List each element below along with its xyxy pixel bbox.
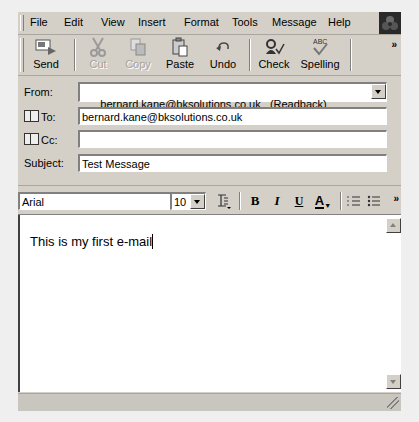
- paragraph-style-icon: [216, 193, 232, 209]
- paste-button[interactable]: Paste: [160, 37, 200, 73]
- menu-insert[interactable]: Insert: [138, 16, 166, 28]
- message-body-editor[interactable]: This is my first e-mail: [18, 215, 401, 392]
- font-size-dropdown-button[interactable]: [190, 194, 205, 209]
- message-body-text[interactable]: This is my first e-mail: [30, 234, 153, 249]
- send-icon: [26, 37, 66, 57]
- copy-icon: [118, 37, 158, 57]
- menu-message[interactable]: Message: [272, 16, 317, 28]
- toolbar: Send Cut Copy: [18, 35, 401, 76]
- address-book-icon: [24, 133, 39, 145]
- copy-button[interactable]: Copy: [118, 37, 158, 73]
- from-dropdown-button[interactable]: [371, 84, 386, 99]
- numbered-list-icon: [347, 194, 361, 208]
- to-label[interactable]: To:: [24, 110, 56, 123]
- format-separator: [340, 192, 342, 210]
- format-separator: [239, 192, 241, 210]
- new-message-window: File Edit View Insert Format Tools Messa…: [18, 12, 401, 410]
- cc-label[interactable]: Cc:: [24, 133, 58, 146]
- scissors-icon: [80, 37, 116, 57]
- scroll-down-button[interactable]: [386, 374, 401, 389]
- menu-view[interactable]: View: [101, 16, 125, 28]
- text-caret: [152, 234, 153, 249]
- menu-edit[interactable]: Edit: [64, 16, 83, 28]
- cc-field[interactable]: [78, 130, 387, 148]
- scroll-up-button[interactable]: [386, 218, 401, 233]
- spelling-icon: ABC: [296, 37, 344, 57]
- chevron-down-icon: ▼: [324, 202, 331, 209]
- menu-bar: File Edit View Insert Format Tools Messa…: [18, 12, 401, 35]
- menu-file[interactable]: File: [30, 16, 48, 28]
- to-field[interactable]: bernard.kane@bksolutions.co.uk: [78, 107, 387, 125]
- menu-help[interactable]: Help: [328, 16, 351, 28]
- formatting-toolbar: Arial 10 B I U A ▼: [18, 185, 401, 216]
- subject-field[interactable]: Test Message: [78, 154, 387, 172]
- toolbar-overflow-button[interactable]: »: [391, 39, 397, 50]
- toolbar-separator: [74, 39, 76, 71]
- check-names-icon: [254, 37, 294, 57]
- italic-button[interactable]: I: [268, 192, 286, 210]
- numbered-list-button[interactable]: [345, 192, 363, 210]
- undo-button[interactable]: Undo: [203, 37, 243, 73]
- from-label: From:: [24, 86, 53, 98]
- bold-button[interactable]: B: [246, 192, 264, 210]
- svg-text:ABC: ABC: [313, 38, 327, 45]
- font-name-select[interactable]: Arial: [18, 192, 188, 210]
- underline-button[interactable]: U: [290, 192, 308, 210]
- cut-button[interactable]: Cut: [80, 37, 116, 73]
- paragraph-style-button[interactable]: [214, 192, 234, 210]
- bulleted-list-button[interactable]: [365, 192, 383, 210]
- message-header: From: bernard.kane@bksolutions.co.uk (Re…: [18, 76, 401, 184]
- toolbar-grip[interactable]: [20, 38, 24, 72]
- font-color-button[interactable]: A ▼: [312, 192, 334, 210]
- spelling-button[interactable]: ABC Spelling: [296, 37, 344, 73]
- undo-icon: [203, 37, 243, 57]
- bulleted-list-icon: [367, 194, 381, 208]
- from-select[interactable]: bernard.kane@bksolutions.co.uk (Readback…: [78, 82, 387, 102]
- menu-format[interactable]: Format: [184, 16, 219, 28]
- menu-grip[interactable]: [20, 15, 24, 31]
- menu-tools[interactable]: Tools: [232, 16, 258, 28]
- paste-icon: [160, 37, 200, 57]
- send-button[interactable]: Send: [26, 37, 66, 73]
- status-bar: [18, 393, 401, 411]
- app-logo-icon: [379, 12, 401, 34]
- font-size-select[interactable]: 10: [170, 192, 206, 210]
- resize-grip-icon[interactable]: [387, 397, 399, 409]
- check-names-button[interactable]: Check: [254, 37, 294, 73]
- subject-label: Subject:: [24, 157, 64, 169]
- format-overflow-button[interactable]: »: [393, 193, 399, 204]
- address-book-icon: [24, 110, 39, 122]
- toolbar-separator: [249, 39, 251, 71]
- toolbar-separator: [350, 39, 352, 71]
